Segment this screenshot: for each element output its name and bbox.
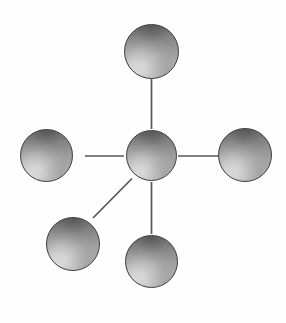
node-bottom[interactable] bbox=[125, 235, 178, 288]
node-left[interactable] bbox=[20, 129, 73, 182]
hub[interactable] bbox=[126, 130, 177, 181]
node-link-diagram bbox=[0, 0, 286, 323]
node-top[interactable] bbox=[124, 24, 179, 79]
edge-hub-bottom-left bbox=[93, 179, 132, 219]
node-bottom-left[interactable] bbox=[46, 217, 100, 271]
node-right[interactable] bbox=[218, 128, 272, 182]
